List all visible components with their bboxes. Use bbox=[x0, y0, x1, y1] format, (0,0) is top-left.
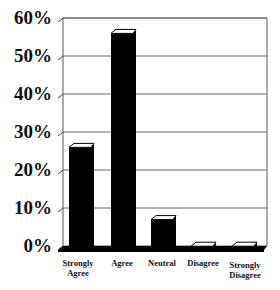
x-label-line: Strongly bbox=[220, 260, 270, 270]
y-tick-60: 60% bbox=[0, 8, 52, 28]
y-tick-50: 50% bbox=[0, 46, 52, 66]
bar-neutral bbox=[151, 216, 176, 250]
x-label-line: Disagree bbox=[220, 270, 270, 280]
x-label-strongly-agree: Strongly Agree bbox=[53, 258, 103, 278]
y-tick-20: 20% bbox=[0, 160, 52, 180]
bar-chart: 60% 50% 40% 30% 20% 10% 0% Strongly Agre… bbox=[0, 0, 280, 290]
bar-strongly-agree bbox=[69, 143, 94, 250]
bar-disagree bbox=[191, 242, 216, 250]
bar-strongly-disagree bbox=[232, 242, 257, 250]
bar-agree bbox=[111, 29, 136, 250]
x-label-line: Strongly bbox=[53, 258, 103, 268]
y-tick-0: 0% bbox=[0, 236, 52, 256]
y-tick-10: 10% bbox=[0, 198, 52, 218]
x-label-strongly-disagree: Strongly Disagree bbox=[220, 260, 270, 280]
y-tick-40: 40% bbox=[0, 84, 52, 104]
x-label-line: Agree bbox=[53, 268, 103, 278]
y-tick-30: 30% bbox=[0, 122, 52, 142]
